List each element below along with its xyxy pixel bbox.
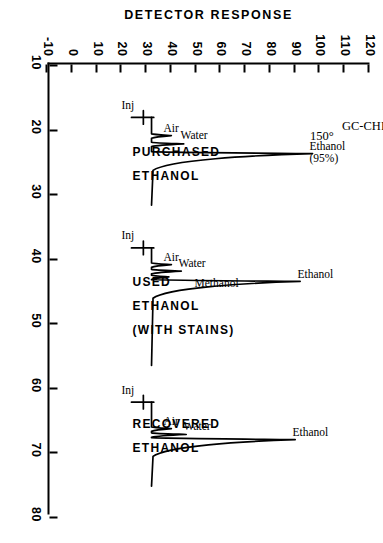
y-axis-tick-label: 90 <box>288 41 302 56</box>
y-axis-tick-label: 100 <box>312 34 326 56</box>
y-axis-tick-label: 60 <box>213 41 227 56</box>
x-axis-tick-label: 20 <box>28 119 42 134</box>
figure-subtitle-temperature: 150° <box>310 128 334 143</box>
section-label-purchased-line2: ETHANOL <box>132 168 199 182</box>
y-axis-tick-label: 10 <box>90 41 104 56</box>
section-label-used-line2: ETHANOL <box>132 298 199 312</box>
peak-label-ethanol: Ethanol <box>297 267 333 279</box>
gc-chromatogram-figure: DETECTOR RESPONSE 1020304050607080-10010… <box>0 0 383 543</box>
y-axis-tick-label: 80 <box>263 41 277 56</box>
peak-label-inj: Inj <box>121 383 134 395</box>
x-axis-tick-label: 70 <box>28 442 42 457</box>
y-axis-tick-label: 40 <box>164 41 178 56</box>
x-axis-tick-label: 30 <box>28 184 42 199</box>
x-axis-tick-label: 60 <box>28 377 42 392</box>
annotation-overlay: 1020304050607080-10010203040506070809010… <box>0 0 383 543</box>
peak-label-inj: Inj <box>121 228 134 240</box>
y-axis-tick-label: 0 <box>65 49 79 56</box>
y-axis-tick-label: 20 <box>114 41 128 56</box>
section-label-purchased-line1: PURCHASED <box>132 144 220 158</box>
section-label-recovered-line2: ETHANOL <box>132 440 199 454</box>
peak-label-water: Water <box>180 128 207 140</box>
y-axis-tick-label: 70 <box>238 41 252 56</box>
y-axis-tick-label: 30 <box>139 41 153 56</box>
peak-label-water: Water <box>178 256 205 268</box>
peak-label-air: Air <box>163 121 178 133</box>
section-label-used-line3: (WITH STAINS) <box>132 322 234 336</box>
y-axis-tick-label: 50 <box>189 41 203 56</box>
section-label-recovered-line1: RECOVERED <box>132 416 220 430</box>
figure-title: GC-CHROMOSORB 101 <box>342 118 383 133</box>
peak-label-inj: Inj <box>121 98 134 110</box>
x-axis-tick-label: 40 <box>28 248 42 263</box>
rotated-page-wrapper: DETECTOR RESPONSE 1020304050607080-10010… <box>0 0 383 543</box>
peak-label-ethanol: Ethanol <box>292 425 328 437</box>
section-label-used-line1: USED <box>132 274 171 288</box>
peak-label-methanol: Methanol <box>194 276 238 288</box>
x-axis-tick-label: 10 <box>28 55 42 70</box>
peak-label-air: Air <box>163 250 178 262</box>
x-axis-tick-label: 80 <box>28 507 42 522</box>
y-axis-tick-label: 110 <box>337 34 351 56</box>
peak-label-ethanol-conc: (95%) <box>309 151 338 163</box>
y-axis-tick-label: -10 <box>40 36 54 56</box>
x-axis-tick-label: 50 <box>28 313 42 328</box>
y-axis-tick-label: 120 <box>362 34 376 56</box>
